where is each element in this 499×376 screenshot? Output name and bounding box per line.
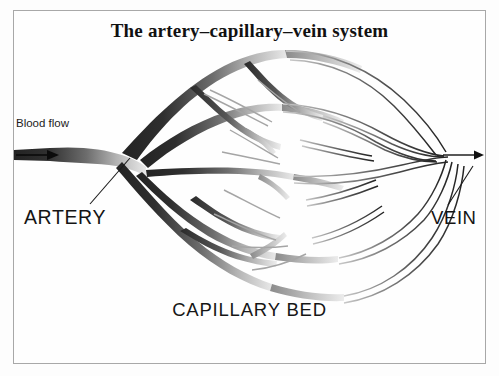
capillary-bed-label: CAPILLARY BED	[0, 299, 499, 321]
blood-flow-label: Blood flow	[16, 117, 69, 129]
vein-label: VEIN	[431, 207, 477, 229]
figure-canvas: The artery–capillary–vein system Blood f…	[0, 0, 499, 376]
arterial-tree	[14, 50, 362, 301]
blood-flow-outlet-arrow	[443, 151, 484, 160]
figure-title: The artery–capillary–vein system	[0, 20, 499, 42]
venous-tree	[283, 51, 464, 303]
artery-label: ARTERY	[24, 206, 106, 229]
vein-leader-line	[448, 166, 473, 205]
